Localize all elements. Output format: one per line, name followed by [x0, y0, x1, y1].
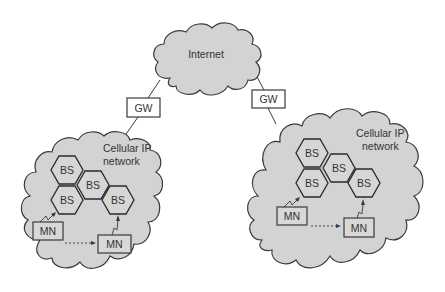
mobile-node: MN	[98, 235, 131, 253]
mobile-node: MN	[33, 222, 63, 240]
svg-text:MN: MN	[284, 210, 300, 222]
network-left-label-line1: Cellular IP	[103, 142, 151, 154]
network-right-label-line1: Cellular IP	[356, 127, 404, 139]
network-left-label-line2: network	[103, 155, 141, 167]
svg-text:BS: BS	[305, 177, 319, 189]
network-right-label-line2: network	[362, 140, 400, 152]
svg-text:MN: MN	[40, 225, 56, 237]
cellular-ip-diagram: Internet GW GW Cellular IP network BS BS…	[0, 0, 445, 292]
svg-text:BS: BS	[305, 147, 319, 159]
svg-text:BS: BS	[111, 194, 125, 206]
gw-left-label: GW	[134, 102, 152, 114]
svg-text:BS: BS	[357, 177, 371, 189]
cellular-network-left: Cellular IP network BS BS BS BS MN	[21, 132, 162, 269]
svg-text:MN: MN	[351, 222, 367, 234]
mobile-node: MN	[277, 207, 307, 225]
svg-text:BS: BS	[86, 179, 100, 191]
svg-text:BS: BS	[60, 194, 74, 206]
internet-label: Internet	[188, 48, 224, 60]
internet-cloud: Internet	[154, 23, 261, 95]
cellular-network-right: Cellular IP network BS BS BS BS MN	[248, 109, 423, 268]
svg-text:BS: BS	[60, 164, 74, 176]
svg-text:BS: BS	[332, 162, 346, 174]
svg-text:MN: MN	[106, 238, 122, 250]
link-internet-gw-left	[148, 80, 160, 98]
mobile-node: MN	[344, 218, 374, 237]
gateway-left: GW	[127, 98, 160, 117]
gateway-right: GW	[252, 90, 285, 108]
gw-right-label: GW	[259, 93, 277, 105]
link-gw-right-network	[268, 108, 276, 124]
